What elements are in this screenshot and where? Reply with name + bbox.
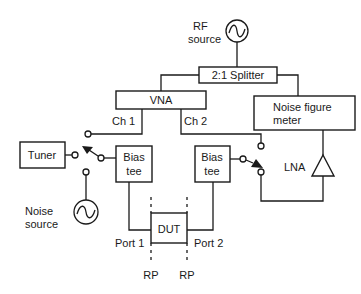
port2-label: Port 2 xyxy=(194,237,223,249)
switch-pivot-2 xyxy=(240,156,246,162)
output-switch xyxy=(240,143,264,175)
splitter-label: 2:1 Splitter xyxy=(212,69,265,81)
ch2-label: Ch 2 xyxy=(184,115,207,127)
ch1-terminal xyxy=(85,131,91,137)
noise-measurement-diagram: RF source 2:1 Splitter VNA Ch 1 Ch 2 Noi… xyxy=(0,0,361,294)
vna: VNA xyxy=(116,91,206,109)
lna: LNA xyxy=(284,155,334,176)
lna-label: LNA xyxy=(284,161,306,173)
noise-terminal xyxy=(83,169,89,175)
ch2-terminal xyxy=(258,143,264,149)
tuner-label: Tuner xyxy=(28,149,57,161)
wire-biastee1-to-dut xyxy=(129,182,151,230)
switch-arm xyxy=(89,150,98,156)
splitter: 2:1 Splitter xyxy=(199,67,277,83)
vna-label: VNA xyxy=(150,94,173,106)
amplifier-triangle-icon xyxy=(312,155,334,176)
bias-tee-2: Bias tee xyxy=(195,146,230,182)
nfm-label-1: Noise figure xyxy=(273,101,332,113)
rp-right-label: RP xyxy=(179,269,194,281)
bias-tee-1-label-2: tee xyxy=(126,165,141,177)
rp-left-label: RP xyxy=(143,269,158,281)
rf-source-label-1: RF xyxy=(193,20,208,32)
switch-pivot xyxy=(98,155,104,161)
noise-source-label-2: source xyxy=(25,218,58,230)
dut: DUT xyxy=(151,213,187,243)
noise-figure-meter: Noise figure meter xyxy=(254,96,355,130)
bias-tee-2-label-1: Bias xyxy=(201,151,223,163)
bias-tee-1: Bias tee xyxy=(116,146,152,182)
input-switch xyxy=(72,131,116,175)
rf-source: RF source xyxy=(188,20,248,45)
tuner-terminal xyxy=(72,152,78,158)
wire-splitter-to-vna xyxy=(161,75,199,91)
wire-splitter-to-nfm xyxy=(277,75,298,96)
switch-arrow-icon xyxy=(251,159,263,168)
lna-terminal xyxy=(258,169,264,175)
wire-switch-to-lna xyxy=(261,175,323,201)
tuner: Tuner xyxy=(20,142,65,168)
dut-label: DUT xyxy=(158,223,181,235)
nfm-label-2: meter xyxy=(273,114,301,126)
bias-tee-2-label-2: tee xyxy=(204,165,219,177)
noise-source: Noise source xyxy=(25,200,98,230)
rf-source-label-2: source xyxy=(188,33,221,45)
wire-biastee2-to-dut xyxy=(187,182,213,230)
ch1-label: Ch 1 xyxy=(112,115,135,127)
switch-arrow-icon xyxy=(82,146,93,154)
switch-arm-2 xyxy=(246,160,253,163)
port1-label: Port 1 xyxy=(115,237,144,249)
bias-tee-1-label-1: Bias xyxy=(123,151,145,163)
noise-source-label-1: Noise xyxy=(25,205,53,217)
